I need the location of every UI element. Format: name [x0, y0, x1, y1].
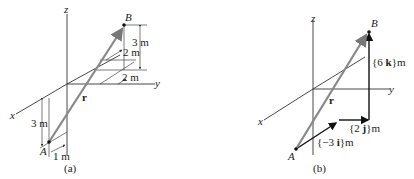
- dim-b-depth: 2 m: [123, 46, 140, 58]
- point-a-label: A: [287, 150, 295, 162]
- point-b: [367, 30, 371, 34]
- position-vector-r: [49, 29, 122, 142]
- point-a-label: A: [39, 145, 47, 157]
- point-a: [294, 147, 298, 151]
- vector-r-label: r: [82, 91, 87, 103]
- component-j-label: {2 j}m: [349, 122, 380, 134]
- z-axis-label: z: [63, 3, 69, 15]
- dim-b-side: 2 m: [122, 71, 139, 83]
- caption-a: (a): [64, 162, 77, 175]
- vector-r-label: r: [329, 94, 334, 106]
- figure-a: z y x 3 m 2 m 2 m 3 m 1 m r: [9, 3, 160, 175]
- y-axis-label: y: [154, 77, 160, 89]
- dim-a-offset: 1 m: [53, 150, 70, 162]
- point-a: [47, 140, 51, 144]
- x-axis-label: x: [9, 109, 15, 121]
- x-axis-negative: [67, 55, 120, 84]
- point-b: [122, 23, 126, 27]
- x-axis-label: x: [257, 115, 263, 127]
- x-axis-negative: [313, 57, 365, 89]
- x-axis: [264, 89, 313, 120]
- caption-b: (b): [313, 162, 326, 175]
- figure-b: z y x r {−3 i}m {2 j}m {6 k}m A B (b): [257, 12, 406, 175]
- x-axis: [16, 84, 67, 114]
- diagram-canvas: z y x 3 m 2 m 2 m 3 m 1 m r: [0, 0, 414, 179]
- point-b-label: B: [125, 11, 132, 23]
- component-k-label: {6 k}m: [372, 56, 406, 68]
- z-axis-label: z: [310, 12, 316, 24]
- dim-a-height: 3 m: [31, 117, 48, 129]
- y-axis-label: y: [388, 83, 394, 95]
- component-i-label: {−3 i}m: [317, 136, 354, 148]
- point-b-label: B: [371, 17, 378, 29]
